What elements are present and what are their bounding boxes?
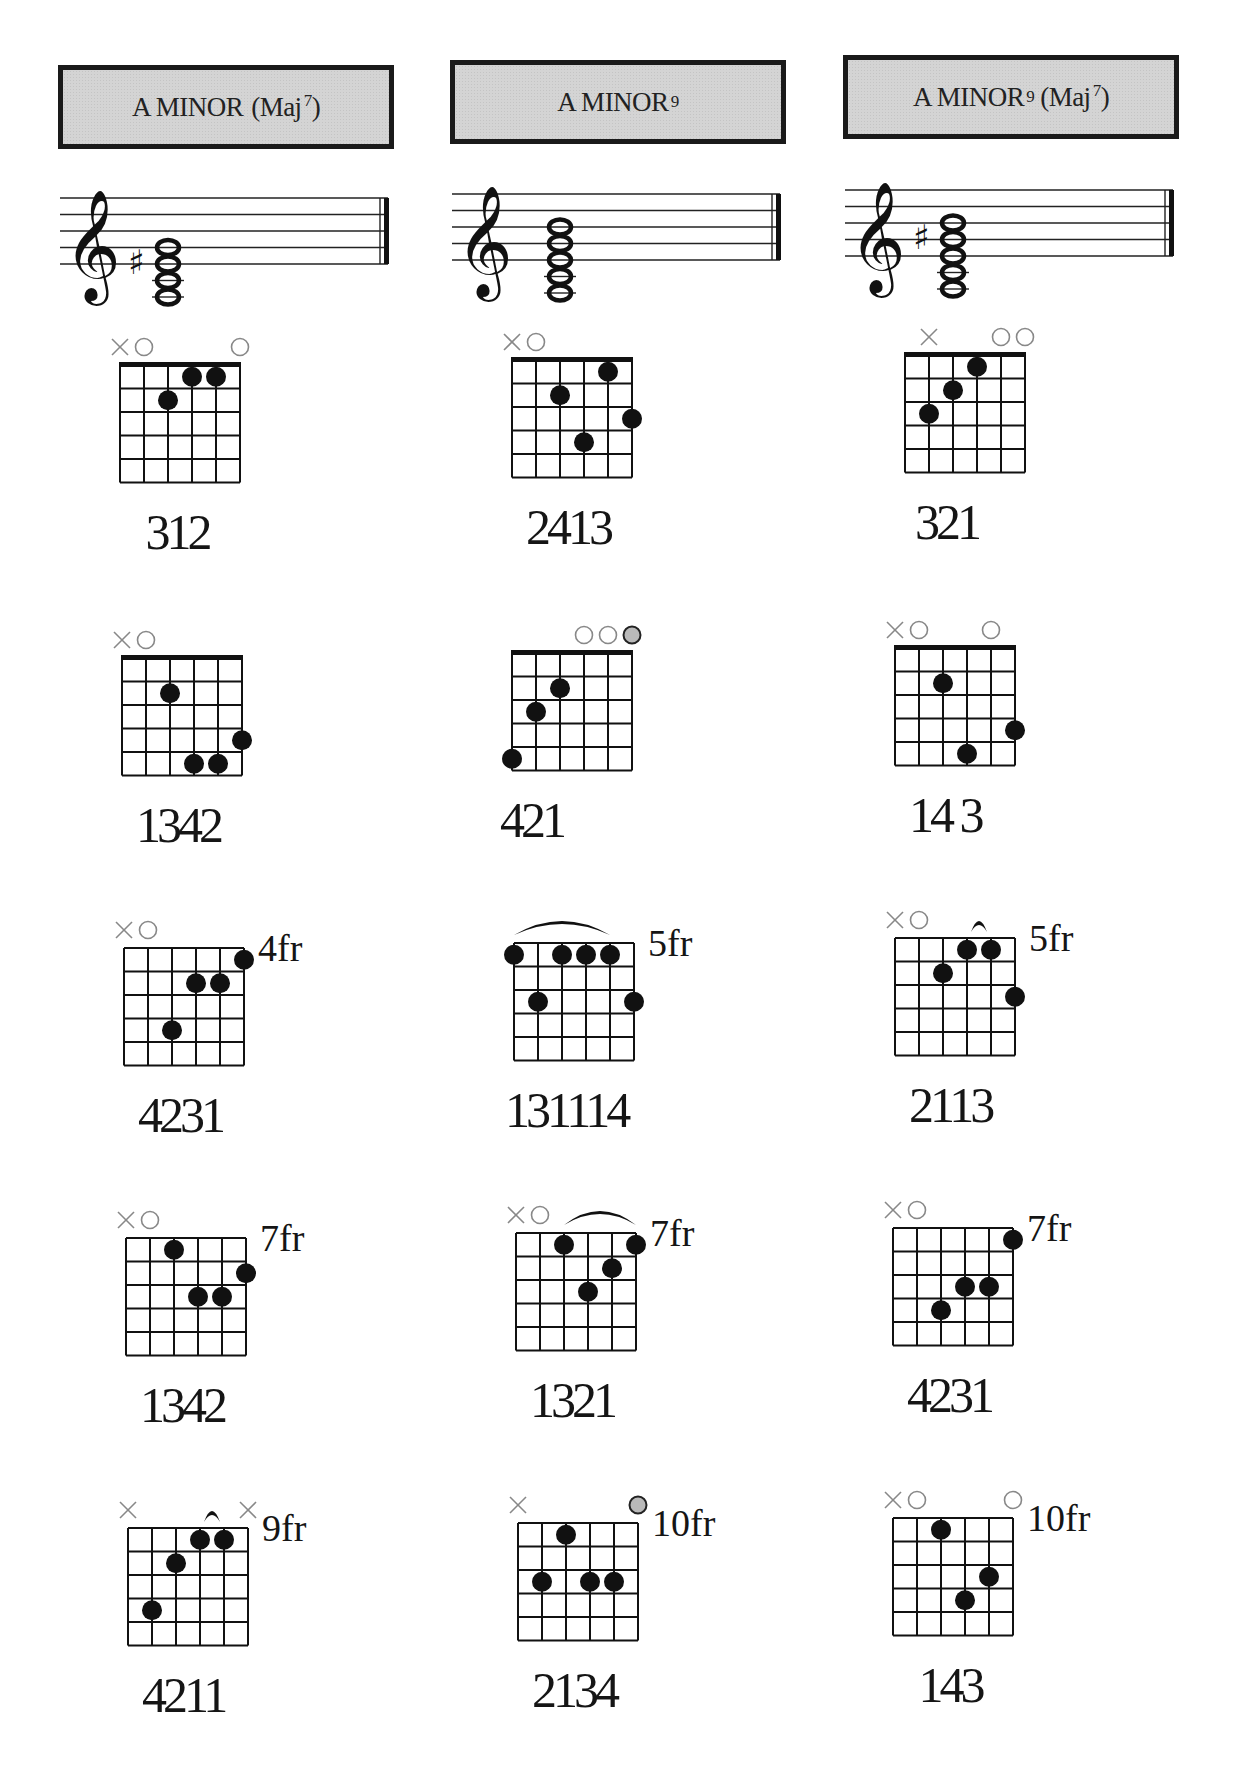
- muted-string-icon: [508, 1207, 524, 1223]
- fingering-numbers: 421: [500, 791, 563, 849]
- fret-position-label: 5fr: [1029, 916, 1073, 960]
- open-string-icon: [911, 912, 928, 929]
- open-string-icon: [909, 1492, 926, 1509]
- open-string-icon: [576, 627, 593, 644]
- open-string-icon: [909, 1202, 926, 1219]
- chord-diagram: [873, 1468, 1053, 1660]
- fingering-numbers: 1321: [530, 1371, 614, 1429]
- fingering-numbers: 4231: [907, 1366, 991, 1424]
- chord-diagram: [494, 893, 674, 1085]
- fingering-numbers: 2113: [909, 1076, 991, 1134]
- chord-title-superscript: 9: [1026, 87, 1034, 107]
- finger-dot-icon: [552, 945, 572, 965]
- finger-dot-icon: [955, 1590, 975, 1610]
- chord-diagram: [492, 603, 672, 795]
- chord-title-main: A MINOR: [557, 87, 668, 118]
- music-staff: 𝄞: [450, 166, 790, 306]
- chord-title-main: A MINOR: [913, 82, 1024, 113]
- finger-dot-icon: [943, 380, 963, 400]
- treble-clef-icon: 𝄞: [456, 185, 513, 302]
- finger-dot-icon: [602, 1258, 622, 1278]
- treble-clef-icon: 𝄞: [849, 181, 906, 298]
- finger-dot-icon: [598, 362, 618, 382]
- finger-dot-icon: [979, 1567, 999, 1587]
- open-string-icon: [532, 1207, 549, 1224]
- muted-string-icon: [885, 1202, 901, 1218]
- open-string-icon: [1017, 329, 1034, 346]
- chord-diagram: [875, 888, 1055, 1080]
- finger-dot-icon: [504, 945, 524, 965]
- finger-dot-icon: [1003, 1230, 1023, 1250]
- fingering-numbers: 143: [919, 1656, 982, 1714]
- barre-arc-icon: [971, 921, 987, 932]
- chord-title-superscript: 9: [671, 92, 679, 112]
- finger-dot-icon: [979, 1277, 999, 1297]
- muted-string-icon: [504, 334, 520, 350]
- finger-dot-icon: [931, 1520, 951, 1540]
- muted-string-icon: [887, 912, 903, 928]
- chord-diagram: [496, 1183, 676, 1375]
- barre-arc-icon: [514, 921, 610, 935]
- chord-diagram: [873, 1178, 1053, 1370]
- optional-note-icon: [624, 627, 641, 644]
- finger-dot-icon: [1005, 987, 1025, 1007]
- finger-dot-icon: [550, 678, 570, 698]
- fret-position-label: 7fr: [650, 1211, 694, 1255]
- fret-position-label: 10fr: [1027, 1496, 1090, 1540]
- open-string-icon: [993, 329, 1010, 346]
- column-a-minor-9-maj7: A MINOR9(Maj7) 𝄞♯ 32114 35fr21137fr42311…: [0, 0, 390, 1783]
- finger-dot-icon: [626, 1235, 646, 1255]
- open-string-icon: [983, 622, 1000, 639]
- fret-position-label: 7fr: [1027, 1206, 1071, 1250]
- finger-dot-icon: [604, 1572, 624, 1592]
- chord-diagram: [492, 310, 672, 502]
- finger-dot-icon: [554, 1235, 574, 1255]
- chord-title-box: A MINOR9: [450, 60, 786, 144]
- finger-dot-icon: [955, 1277, 975, 1297]
- finger-dot-icon: [580, 1572, 600, 1592]
- finger-dot-icon: [502, 749, 522, 769]
- muted-string-icon: [921, 329, 937, 345]
- muted-string-icon: [510, 1497, 526, 1513]
- fingering-numbers: 131114: [505, 1081, 627, 1139]
- paren-superscript: 7: [1093, 81, 1101, 100]
- paren-prefix: (Maj: [1040, 82, 1090, 112]
- fingering-numbers: 321: [915, 493, 978, 551]
- open-string-icon: [600, 627, 617, 644]
- fret-position-label: 10fr: [652, 1501, 715, 1545]
- open-string-icon: [528, 334, 545, 351]
- fret-position-label: 5fr: [648, 921, 692, 965]
- muted-string-icon: [885, 1492, 901, 1508]
- chord-diagram: [498, 1473, 678, 1665]
- finger-dot-icon: [600, 945, 620, 965]
- chord-title-paren: (Maj7): [1040, 81, 1109, 113]
- fingering-numbers: 2413: [526, 498, 610, 556]
- finger-dot-icon: [919, 404, 939, 424]
- music-staff: 𝄞♯: [843, 162, 1183, 302]
- sharp-icon: ♯: [913, 217, 929, 257]
- finger-dot-icon: [967, 357, 987, 377]
- finger-dot-icon: [576, 945, 596, 965]
- finger-dot-icon: [578, 1282, 598, 1302]
- finger-dot-icon: [933, 673, 953, 693]
- finger-dot-icon: [933, 963, 953, 983]
- finger-dot-icon: [550, 385, 570, 405]
- finger-dot-icon: [931, 1300, 951, 1320]
- fingering-numbers: 14 3: [909, 786, 981, 844]
- open-string-icon: [911, 622, 928, 639]
- finger-dot-icon: [957, 940, 977, 960]
- finger-dot-icon: [622, 409, 642, 429]
- finger-dot-icon: [1005, 720, 1025, 740]
- chord-diagram: [875, 598, 1055, 790]
- finger-dot-icon: [624, 992, 644, 1012]
- finger-dot-icon: [981, 940, 1001, 960]
- muted-string-icon: [887, 622, 903, 638]
- finger-dot-icon: [526, 702, 546, 722]
- finger-dot-icon: [532, 1572, 552, 1592]
- finger-dot-icon: [556, 1525, 576, 1545]
- chord-diagram: [885, 305, 1065, 497]
- finger-dot-icon: [574, 432, 594, 452]
- finger-dot-icon: [957, 744, 977, 764]
- optional-note-icon: [630, 1497, 647, 1514]
- finger-dot-icon: [528, 992, 548, 1012]
